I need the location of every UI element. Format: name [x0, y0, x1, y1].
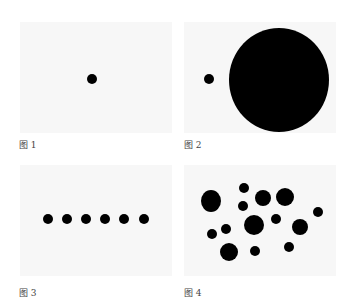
dot-canvas	[20, 165, 172, 276]
dot	[43, 214, 53, 224]
dot	[207, 229, 217, 239]
dot	[100, 214, 110, 224]
dot	[201, 190, 221, 212]
figure-3-caption: 图 3	[19, 286, 37, 299]
dot	[244, 215, 264, 235]
dot	[292, 219, 308, 235]
dot	[221, 224, 231, 234]
dot-canvas	[184, 165, 336, 276]
figure-4-caption: 图 4	[184, 286, 202, 299]
dot	[276, 188, 294, 206]
dot-canvas	[20, 22, 172, 133]
dot	[204, 74, 214, 84]
dot	[119, 214, 129, 224]
dot	[139, 214, 149, 224]
dot	[250, 246, 260, 256]
dot	[239, 183, 249, 193]
dot	[87, 74, 97, 84]
dot	[271, 214, 281, 224]
dot	[81, 214, 91, 224]
dot	[255, 190, 271, 206]
dot	[238, 201, 248, 211]
figure-1-panel	[20, 22, 172, 133]
dot	[229, 28, 329, 132]
figure-3-panel	[20, 165, 172, 276]
figure-2-panel	[184, 22, 336, 133]
dot	[284, 242, 294, 252]
dot	[62, 214, 72, 224]
dot	[220, 243, 238, 261]
dot	[313, 207, 323, 217]
figure-4-panel	[184, 165, 336, 276]
figure-2-caption: 图 2	[184, 138, 202, 151]
dot-canvas	[184, 22, 336, 133]
figure-1-caption: 图 1	[19, 138, 37, 151]
